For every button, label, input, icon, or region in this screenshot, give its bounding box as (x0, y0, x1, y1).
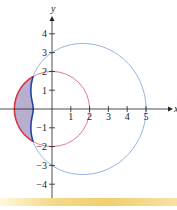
x-tick-label: 1 (68, 111, 73, 122)
y-tick-label: 3 (42, 47, 47, 58)
y-tick-label: 1 (42, 85, 47, 96)
x-axis-arrow-icon (168, 107, 173, 112)
y-tick-label: 2 (42, 66, 47, 77)
y-tick-label: −4 (36, 179, 47, 190)
x-axis-label: x (173, 103, 177, 114)
y-tick-label: −3 (36, 160, 47, 171)
x-tick-label: 2 (87, 111, 92, 122)
y-tick-label: −1 (36, 122, 47, 133)
x-tick-label: 3 (106, 111, 111, 122)
decorative-bottom-bar (0, 198, 177, 206)
polar-plot: xy123454321−1−2−3−4 (0, 0, 177, 210)
x-tick-label: 5 (144, 111, 149, 122)
y-axis-label: y (50, 3, 56, 14)
y-tick-label: 4 (42, 28, 47, 39)
y-tick-label: −2 (36, 141, 47, 152)
y-axis-arrow-icon (50, 16, 55, 21)
x-tick-label: 4 (125, 111, 130, 122)
